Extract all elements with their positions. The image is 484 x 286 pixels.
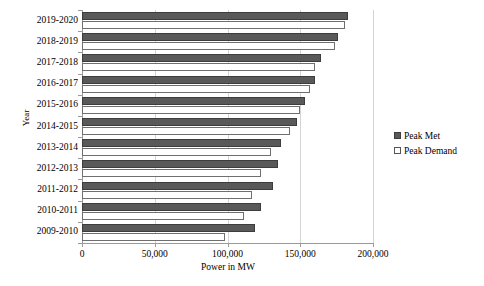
bar-peak-met <box>82 97 305 105</box>
bar-group <box>82 10 373 31</box>
y-tick-label: 2017-2018 <box>37 57 78 67</box>
x-tick-label: 200,000 <box>358 249 389 259</box>
bar-group <box>82 158 373 179</box>
y-axis-tick-labels: 2019-20202018-20192017-20182016-20172015… <box>0 10 78 243</box>
bar-peak-met <box>82 54 321 62</box>
chart-legend: Peak MetPeak Demand <box>394 128 482 158</box>
y-tick-label: 2011-2012 <box>37 184 78 194</box>
y-tick-label: 2013-2014 <box>37 142 78 152</box>
plot-area <box>82 10 373 243</box>
y-tick-label: 2015-2016 <box>37 99 78 109</box>
legend-swatch-peak-demand-icon <box>394 147 401 154</box>
y-tick-label: 2012-2013 <box>37 163 78 173</box>
bar-group <box>82 222 373 243</box>
x-axis-title: Power in MW <box>82 262 374 272</box>
bar-peak-met <box>82 33 338 41</box>
bar-peak-demand <box>82 106 300 114</box>
bar-group <box>82 95 373 116</box>
bar-peak-met <box>82 203 261 211</box>
bar-peak-met <box>82 139 281 147</box>
y-tick-label: 2016-2017 <box>37 78 78 88</box>
bar-peak-demand <box>82 169 261 177</box>
x-axis-tick-labels: 050,000100,000150,000200,000 <box>0 243 484 263</box>
y-tick-label: 2018-2019 <box>37 36 78 46</box>
bar-peak-met <box>82 224 255 232</box>
y-tick-label: 2010-2011 <box>37 205 78 215</box>
bar-peak-met <box>82 118 297 126</box>
bar-group <box>82 74 373 95</box>
bar-peak-met <box>82 160 278 168</box>
bar-peak-demand <box>82 42 335 50</box>
x-tick-mark <box>373 243 374 247</box>
y-tick-label: 2019-2020 <box>37 15 78 25</box>
chart-screenshot: Year 2019-20202018-20192017-20182016-201… <box>0 0 484 286</box>
bar-peak-met <box>82 76 315 84</box>
bar-group <box>82 179 373 200</box>
x-tick-mark <box>82 243 83 247</box>
gridline <box>373 10 374 243</box>
x-tick-label: 0 <box>80 249 85 259</box>
legend-item: Peak Demand <box>394 143 482 158</box>
bar-peak-demand <box>82 85 310 93</box>
bar-group <box>82 31 373 52</box>
x-tick-mark <box>155 243 156 247</box>
bar-peak-demand <box>82 63 315 71</box>
bar-group <box>82 116 373 137</box>
legend-label: Peak Met <box>404 131 440 141</box>
legend-item: Peak Met <box>394 128 482 143</box>
x-tick-label: 150,000 <box>285 249 316 259</box>
x-tick-label: 50,000 <box>142 249 168 259</box>
bar-peak-demand <box>82 212 244 220</box>
bar-peak-met <box>82 182 273 190</box>
bar-peak-demand <box>82 148 271 156</box>
y-tick-label: 2014-2015 <box>37 121 78 131</box>
bar-peak-demand <box>82 233 225 241</box>
x-tick-mark <box>228 243 229 247</box>
legend-label: Peak Demand <box>404 146 457 156</box>
bar-peak-demand <box>82 21 345 29</box>
bar-peak-demand <box>82 127 290 135</box>
x-tick-mark <box>300 243 301 247</box>
x-tick-label: 100,000 <box>212 249 243 259</box>
y-tick-label: 2009-2010 <box>37 226 78 236</box>
bar-group <box>82 137 373 158</box>
bar-group <box>82 201 373 222</box>
bar-peak-demand <box>82 191 252 199</box>
legend-swatch-peak-met-icon <box>394 132 401 139</box>
bar-peak-met <box>82 12 348 20</box>
bar-group <box>82 52 373 73</box>
